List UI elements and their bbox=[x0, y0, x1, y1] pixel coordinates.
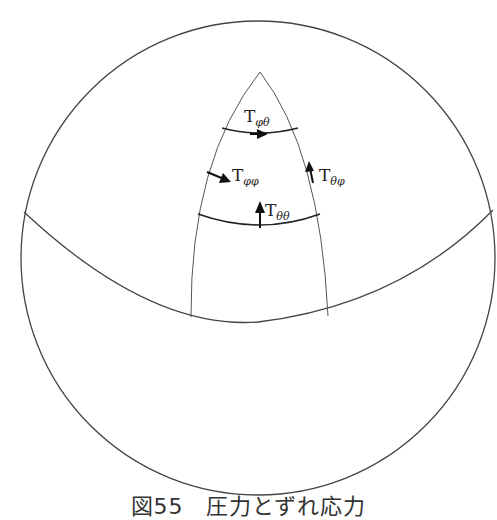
label-t-phi-phi: Tφφ bbox=[232, 165, 259, 188]
label-t-phi-theta: Tφθ bbox=[244, 106, 270, 129]
latitude-arc bbox=[24, 210, 493, 323]
figure-caption: 図55 圧力とずれ応力 bbox=[0, 488, 497, 520]
label-t-theta-theta: Tθθ bbox=[265, 200, 290, 223]
arrow-t-theta-theta-icon bbox=[255, 201, 265, 228]
label-t-theta-phi: Tθφ bbox=[319, 165, 345, 188]
element-right-meridian bbox=[260, 72, 328, 316]
sphere-outline bbox=[21, 21, 495, 495]
arrow-t-phi-phi-icon bbox=[207, 172, 231, 183]
arrow-t-phi-theta-icon bbox=[250, 129, 268, 139]
